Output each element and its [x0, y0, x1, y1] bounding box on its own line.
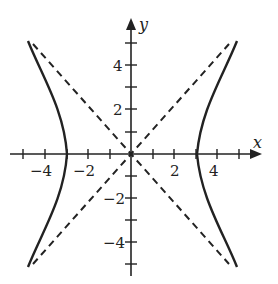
hyperbola-graph: x y −4 −2 2 4 4 2 −2 −4 [0, 0, 278, 284]
x-tick-label: −2 [73, 162, 95, 180]
y-tick-label: −2 [103, 190, 125, 208]
y-axis-label: y [138, 15, 149, 34]
plot-area: x y −4 −2 2 4 4 2 −2 −4 [0, 0, 278, 284]
x-axis-label: x [253, 133, 262, 152]
axes [10, 24, 256, 276]
y-axis-arrow-icon [126, 18, 136, 30]
x-tick-label: 4 [209, 162, 219, 180]
y-tick-label: 2 [113, 101, 123, 119]
y-tick-label: 4 [113, 57, 123, 75]
x-tick-label: 2 [170, 162, 180, 180]
x-tick-label: −4 [30, 162, 52, 180]
y-tick-label: −4 [103, 234, 125, 252]
